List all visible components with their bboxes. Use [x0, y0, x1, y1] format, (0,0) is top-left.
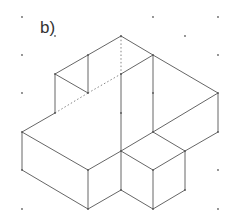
vertex-dot [184, 150, 186, 152]
vertices [21, 35, 219, 210]
vertex-dot [120, 112, 122, 114]
vertex-dot [54, 73, 56, 75]
edge [153, 151, 185, 170]
grid-dot [217, 54, 219, 56]
visible-edges [22, 36, 218, 209]
edge [88, 190, 121, 209]
vertex-dot [152, 92, 154, 94]
edge [55, 55, 88, 74]
vertex-dot [21, 131, 23, 133]
vertex-dot [120, 189, 122, 191]
edge [55, 74, 88, 93]
isometric-drawing [0, 0, 238, 222]
vertex-dot [21, 169, 23, 171]
edge [88, 151, 121, 170]
hidden-edge [55, 93, 88, 113]
edge [121, 151, 153, 170]
vertex-dot [87, 54, 89, 56]
grid-dot [217, 208, 219, 210]
edge [153, 132, 185, 151]
grid-dot [21, 208, 23, 210]
grid-dot [54, 35, 56, 37]
vertex-dot [152, 169, 154, 171]
vertex-dot [217, 92, 219, 94]
edge [153, 190, 185, 209]
vertex-dot [152, 54, 154, 56]
edge [22, 113, 55, 132]
grid-dot [217, 169, 219, 171]
edge [185, 132, 218, 151]
edge [121, 36, 153, 55]
grid-dot [217, 16, 219, 18]
edge [121, 132, 153, 151]
vertex-dot [120, 35, 122, 37]
edge [121, 55, 153, 74]
grid-dot [21, 92, 23, 94]
vertex-dot [152, 208, 154, 210]
vertex-dot [120, 150, 122, 152]
vertex-dot [120, 73, 122, 75]
grid-dot [21, 54, 23, 56]
vertex-dot [217, 131, 219, 133]
edge [88, 36, 121, 55]
grid-dot [21, 16, 23, 18]
grid-dot [184, 35, 186, 37]
isometric-dot-grid [21, 16, 219, 210]
vertex-dot [87, 92, 89, 94]
vertex-dot [87, 169, 89, 171]
edge [153, 93, 218, 132]
edge [153, 55, 218, 93]
edge [121, 190, 153, 209]
vertex-dot [87, 208, 89, 210]
vertex-dot [54, 112, 56, 114]
edge [22, 132, 88, 170]
hidden-edge [88, 74, 121, 93]
vertex-dot [184, 189, 186, 191]
grid-dot [152, 16, 154, 18]
vertex-dot [152, 131, 154, 133]
edge [22, 170, 88, 209]
